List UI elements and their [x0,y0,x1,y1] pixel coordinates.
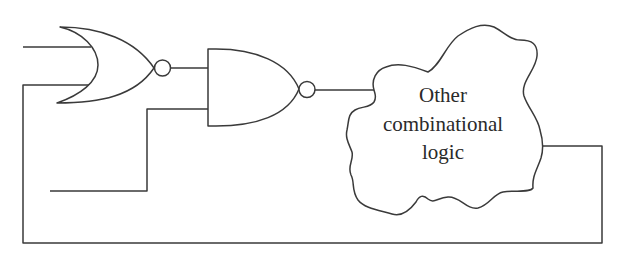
nand-inversion-bubble [299,82,315,98]
cloud-label-line-1: Other [419,83,467,107]
nor-inversion-bubble [155,60,171,76]
circuit-diagram: Other combinational logic [0,0,619,254]
nand-gate [208,49,299,126]
cloud-label-line-3: logic [422,140,464,164]
nor-gate [57,27,154,103]
circuit-svg: Other combinational logic [0,0,619,254]
cloud-label-line-2: combinational [383,112,503,136]
nand-input-2-wire [50,109,208,191]
